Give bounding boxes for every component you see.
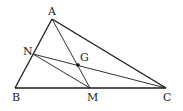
segment-nc bbox=[33, 54, 166, 88]
triangle-diagram: A N G B M C bbox=[0, 0, 183, 111]
segment-ca bbox=[52, 19, 166, 88]
label-n: N bbox=[23, 45, 33, 58]
label-m: M bbox=[87, 91, 98, 104]
label-c: C bbox=[163, 91, 171, 104]
label-b: B bbox=[12, 91, 20, 104]
segment-ab bbox=[15, 19, 52, 88]
label-g: G bbox=[80, 51, 89, 64]
label-a: A bbox=[47, 5, 57, 18]
